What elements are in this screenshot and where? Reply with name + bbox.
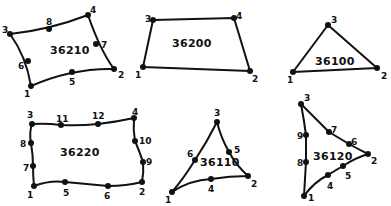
node-number-label: 6 xyxy=(187,149,193,159)
node-dot-icon xyxy=(303,132,309,138)
node-number-label: 3 xyxy=(304,93,310,103)
element-36120: 36120123456789 xyxy=(297,93,377,203)
node-number-label: 2 xyxy=(252,74,258,84)
element-36200: 362001234 xyxy=(135,11,258,84)
node-number-label: 7 xyxy=(331,125,337,135)
node-number-label: 3 xyxy=(331,15,337,25)
node-number-label: 2 xyxy=(381,71,387,81)
node-number-label: 5 xyxy=(345,171,351,181)
node-dot-icon xyxy=(214,119,220,125)
node-number-label: 8 xyxy=(20,139,26,149)
node-number-label: 1 xyxy=(24,89,30,99)
node-number-label: 5 xyxy=(63,188,69,198)
element-36100: 36100123 xyxy=(287,15,387,85)
node-dot-icon xyxy=(226,149,232,155)
node-dot-icon xyxy=(93,41,99,47)
node-number-label: 1 xyxy=(135,70,141,80)
element-id-label: 36110 xyxy=(200,156,240,169)
node-dot-icon xyxy=(95,121,101,127)
node-dot-icon xyxy=(301,193,307,199)
element-36210: 3621012345678 xyxy=(2,5,124,99)
element-id-label: 36100 xyxy=(315,55,355,68)
node-dot-icon xyxy=(25,58,31,64)
node-dot-icon xyxy=(208,176,214,182)
node-dot-icon xyxy=(62,179,68,185)
node-number-label: 2 xyxy=(118,70,124,80)
node-number-label: 4 xyxy=(327,181,333,191)
node-dot-icon xyxy=(69,69,75,75)
node-dot-icon xyxy=(132,138,138,144)
node-number-label: 3 xyxy=(145,14,151,24)
element-id-label: 36200 xyxy=(172,37,212,50)
node-number-label: 8 xyxy=(297,158,303,168)
node-number-label: 10 xyxy=(139,136,152,146)
node-number-label: 1 xyxy=(165,195,171,205)
node-number-label: 5 xyxy=(69,77,75,87)
node-number-label: 9 xyxy=(297,131,303,141)
node-number-label: 3 xyxy=(2,25,8,35)
node-number-label: 7 xyxy=(23,163,29,173)
node-number-label: 5 xyxy=(234,145,240,155)
element-id-label: 36120 xyxy=(313,150,353,163)
node-dot-icon xyxy=(303,159,309,165)
node-number-label: 9 xyxy=(146,157,152,167)
node-number-label: 6 xyxy=(104,191,110,201)
node-dot-icon xyxy=(340,163,346,169)
node-dot-icon xyxy=(30,163,36,169)
element-id-label: 36220 xyxy=(60,146,100,159)
finite-element-types-diagram: 3621012345678362001234361001233622012345… xyxy=(0,0,391,206)
node-number-label: 4 xyxy=(236,11,242,21)
node-dot-icon xyxy=(105,183,111,189)
node-dot-icon xyxy=(325,172,331,178)
node-number-label: 8 xyxy=(46,17,52,27)
node-number-label: 4 xyxy=(90,5,96,15)
node-dot-icon xyxy=(28,140,34,146)
node-dot-icon xyxy=(29,121,35,127)
node-number-label: 7 xyxy=(101,40,107,50)
node-dot-icon xyxy=(111,66,117,72)
node-dot-icon xyxy=(31,183,37,189)
node-number-label: 2 xyxy=(251,179,257,189)
node-number-label: 12 xyxy=(92,111,105,121)
node-number-label: 1 xyxy=(27,190,33,200)
node-dot-icon xyxy=(374,65,380,71)
element-id-label: 36210 xyxy=(50,44,90,57)
node-number-label: 2 xyxy=(139,187,145,197)
node-number-label: 3 xyxy=(27,110,33,120)
node-number-label: 4 xyxy=(132,107,138,117)
node-number-label: 11 xyxy=(56,114,69,124)
node-number-label: 6 xyxy=(351,137,357,147)
element-36110: 36110123456 xyxy=(165,108,257,205)
node-number-label: 1 xyxy=(308,193,314,203)
element-36220: 36220123456789101112 xyxy=(20,107,152,201)
node-number-label: 3 xyxy=(214,108,220,118)
node-number-label: 6 xyxy=(18,61,24,71)
node-number-label: 1 xyxy=(287,75,293,85)
node-number-label: 4 xyxy=(208,184,214,194)
node-number-label: 2 xyxy=(371,156,377,166)
node-dot-icon xyxy=(139,179,145,185)
